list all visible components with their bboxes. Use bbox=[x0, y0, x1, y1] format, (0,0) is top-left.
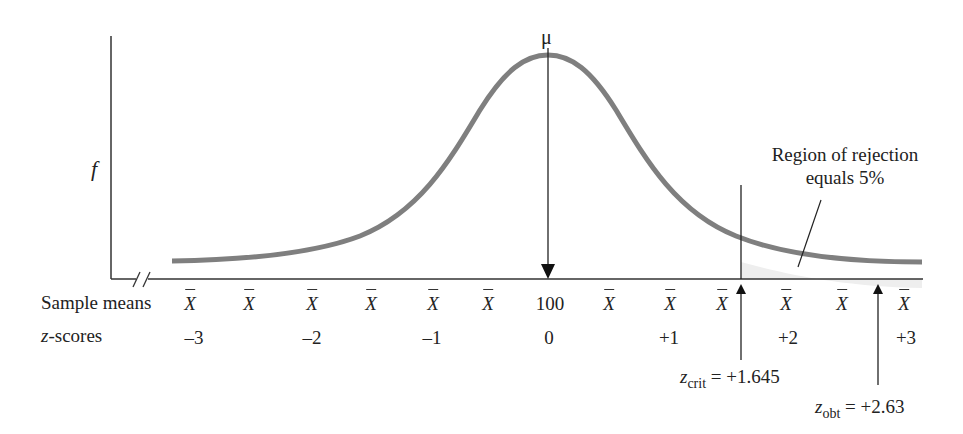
z-obt-subscript: obt bbox=[822, 406, 840, 421]
sample-mean-label: X bbox=[716, 294, 728, 313]
z-tick-label: –1 bbox=[423, 328, 442, 347]
mean-label: μ bbox=[541, 27, 552, 47]
sample-mean-label: X bbox=[603, 294, 615, 313]
sample-mean-label: X bbox=[664, 294, 676, 313]
sample-mean-label: X bbox=[306, 294, 318, 313]
z-tick-label: +1 bbox=[659, 328, 679, 347]
sample-mean-label: X bbox=[482, 294, 494, 313]
z-tick-label: –2 bbox=[303, 328, 322, 347]
sample-mean-label: X bbox=[898, 294, 910, 313]
sample-mean-label: X bbox=[836, 294, 848, 313]
normal-curve-diagram bbox=[0, 0, 963, 434]
z-tick-label: –3 bbox=[185, 328, 204, 347]
z-crit-label: zcrit = +1.645 bbox=[680, 367, 780, 386]
rejection-label-line2: equals 5% bbox=[760, 168, 930, 187]
sample-mean-label: X bbox=[365, 294, 377, 313]
sample-mean-label: X bbox=[780, 294, 792, 313]
mean-value-label: 100 bbox=[536, 294, 565, 313]
z-crit-arrowhead bbox=[736, 284, 746, 294]
z-scores-suffix: -scores bbox=[48, 325, 102, 346]
z-scores-row-label: z-scores bbox=[41, 326, 102, 345]
rejection-region-area bbox=[741, 262, 922, 288]
y-axis-label: f bbox=[91, 158, 97, 180]
sample-mean-label: X bbox=[243, 294, 255, 313]
sample-mean-label: X bbox=[427, 294, 439, 313]
rejection-label-line1: Region of rejection bbox=[760, 145, 930, 164]
z-crit-subscript: crit bbox=[687, 376, 706, 391]
rejection-region-label: Region of rejection equals 5% bbox=[760, 145, 930, 187]
z-tick-label: 0 bbox=[544, 328, 554, 347]
z-obt-label: zobt = +2.63 bbox=[815, 397, 904, 416]
mean-arrowhead bbox=[541, 264, 555, 279]
z-tick-label: +2 bbox=[778, 328, 798, 347]
sample-mean-label: X bbox=[184, 294, 196, 313]
z-obt-value: = +2.63 bbox=[845, 396, 904, 417]
z-crit-value: = +1.645 bbox=[711, 366, 780, 387]
z-tick-label: +3 bbox=[896, 328, 916, 347]
sample-means-row-label: Sample means bbox=[41, 293, 151, 312]
